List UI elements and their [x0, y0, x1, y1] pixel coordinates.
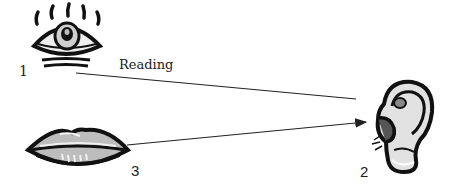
ear-icon: [372, 82, 432, 172]
eye-icon: [34, 4, 100, 66]
diagram-svg: [0, 0, 454, 187]
edge-label-reading: Reading: [119, 57, 173, 72]
diagram-canvas: 1 Reading 3 2: [0, 0, 454, 187]
lips-icon: [28, 129, 128, 165]
edge-eye-to-ear: [76, 73, 356, 99]
edge-mouth-to-ear: [127, 122, 366, 145]
mouth-number-label: 3: [131, 162, 139, 179]
eye-number-label: 1: [19, 63, 28, 79]
ear-number-label: 2: [360, 163, 368, 180]
